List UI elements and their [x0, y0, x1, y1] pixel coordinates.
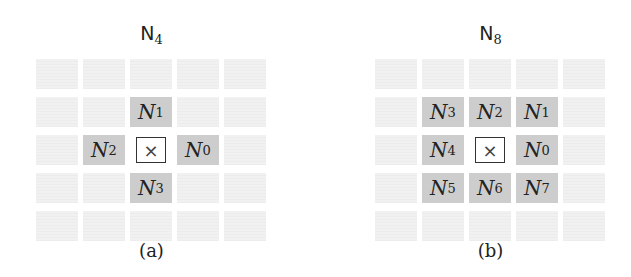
neighbor-pixel: N3	[130, 173, 172, 203]
neighbor-label: N	[138, 100, 156, 124]
neighbor-pixel: N7	[516, 173, 558, 203]
background-pixel	[516, 211, 558, 241]
background-pixel	[36, 211, 78, 241]
background-pixel	[177, 97, 219, 127]
neighbor-pixel: N5	[422, 173, 464, 203]
neighbor-index: 5	[448, 181, 456, 196]
background-pixel	[83, 173, 125, 203]
neighbor-label: N	[524, 100, 542, 124]
neighbor-pixel: N2	[83, 135, 125, 165]
background-pixel	[375, 211, 417, 241]
panel-title: N8	[375, 22, 606, 47]
background-pixel	[224, 59, 266, 89]
panel-caption: (b)	[375, 240, 606, 261]
neighbor-pixel: N0	[516, 135, 558, 165]
neighbor-index: 7	[542, 181, 550, 196]
background-pixel	[469, 59, 511, 89]
background-pixel	[224, 211, 266, 241]
pixel-grid: N1N2×N0N3	[36, 59, 266, 241]
panel-caption: (a)	[36, 240, 267, 261]
cross-icon: ×	[475, 137, 505, 163]
background-pixel	[177, 173, 219, 203]
background-pixel	[563, 135, 605, 165]
background-pixel	[563, 97, 605, 127]
neighbor-label: N	[524, 138, 542, 162]
neighbor-index: 3	[156, 181, 164, 196]
neighbor-index: 6	[495, 181, 503, 196]
neighbor-label: N	[430, 176, 448, 200]
background-pixel	[422, 59, 464, 89]
neighbor-index: 1	[542, 105, 550, 120]
background-pixel	[36, 97, 78, 127]
background-pixel	[422, 211, 464, 241]
neighbor-label: N	[91, 138, 109, 162]
background-pixel	[36, 59, 78, 89]
neighbor-index: 0	[542, 143, 550, 158]
background-pixel	[83, 97, 125, 127]
panel-title: N4	[36, 22, 267, 47]
background-pixel	[375, 135, 417, 165]
background-pixel	[36, 135, 78, 165]
background-pixel	[469, 211, 511, 241]
neighbor-label: N	[430, 100, 448, 124]
neighbor-pixel: N1	[516, 97, 558, 127]
panel-n4: N4 N1N2×N0N3 (a)	[36, 0, 267, 277]
neighbor-index: 2	[109, 143, 117, 158]
neighbor-pixel: N6	[469, 173, 511, 203]
background-pixel	[224, 173, 266, 203]
neighbor-index: 4	[448, 143, 456, 158]
neighbor-label: N	[185, 138, 203, 162]
background-pixel	[375, 97, 417, 127]
background-pixel	[83, 211, 125, 241]
panel-n8: N8 N3N2N1N4×N0N5N6N7 (b)	[375, 0, 606, 277]
neighbor-pixel: N4	[422, 135, 464, 165]
background-pixel	[130, 211, 172, 241]
background-pixel	[177, 211, 219, 241]
background-pixel	[224, 135, 266, 165]
background-pixel	[177, 59, 219, 89]
pixel-grid: N3N2N1N4×N0N5N6N7	[375, 59, 605, 241]
background-pixel	[516, 59, 558, 89]
neighbor-pixel: N3	[422, 97, 464, 127]
background-pixel	[375, 173, 417, 203]
background-pixel	[563, 211, 605, 241]
cross-icon: ×	[136, 137, 166, 163]
background-pixel	[375, 59, 417, 89]
neighbor-pixel: N1	[130, 97, 172, 127]
background-pixel	[36, 173, 78, 203]
neighbor-label: N	[477, 100, 495, 124]
neighbor-label: N	[477, 176, 495, 200]
neighbor-label: N	[430, 138, 448, 162]
background-pixel	[563, 173, 605, 203]
neighbor-index: 3	[448, 105, 456, 120]
neighbor-pixel: N0	[177, 135, 219, 165]
center-pixel: ×	[130, 135, 172, 165]
center-pixel: ×	[469, 135, 511, 165]
neighbor-index: 0	[203, 143, 211, 158]
neighbor-label: N	[138, 176, 156, 200]
background-pixel	[224, 97, 266, 127]
neighbor-pixel: N2	[469, 97, 511, 127]
neighbor-index: 1	[156, 105, 164, 120]
neighbor-label: N	[524, 176, 542, 200]
background-pixel	[83, 59, 125, 89]
background-pixel	[130, 59, 172, 89]
background-pixel	[563, 59, 605, 89]
neighbor-index: 2	[495, 105, 503, 120]
